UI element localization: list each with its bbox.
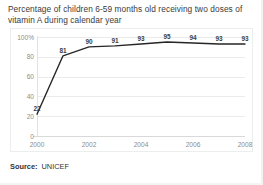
data-point-label: 94: [183, 34, 203, 41]
y-tick-label: 80: [10, 53, 34, 60]
source-note: Source:UNICEF: [10, 162, 69, 171]
x-tick-label: 2008: [228, 141, 262, 149]
gridline: [37, 77, 245, 78]
x-tick-label: 2006: [176, 141, 210, 149]
y-axis-line: [37, 36, 38, 137]
gridline: [37, 116, 245, 117]
source-label: Source:: [10, 162, 38, 171]
x-tick-label: 2002: [72, 141, 106, 149]
x-tick-label: 2000: [20, 141, 54, 149]
y-axis-tick-labels: 020406080100%: [8, 0, 34, 185]
data-point-label: 93: [209, 35, 229, 42]
data-point-label: 93: [131, 35, 151, 42]
chart-title: Percentage of children 6-59 months old r…: [8, 4, 254, 26]
data-point-label: 95: [157, 33, 177, 40]
y-tick-label: 100%: [10, 34, 34, 41]
chart-screenshot: Percentage of children 6-59 months old r…: [0, 0, 263, 185]
gridline: [37, 96, 245, 97]
data-point-label: 90: [79, 38, 99, 45]
data-point-label: 91: [105, 37, 125, 44]
x-axis-line: [33, 136, 245, 137]
gridline: [37, 57, 245, 58]
data-point-label: 93: [235, 35, 255, 42]
y-tick-label: 0: [10, 133, 34, 140]
x-tick-label: 2004: [124, 141, 158, 149]
source-value: UNICEF: [42, 162, 70, 171]
data-point-label: 81: [53, 47, 73, 54]
data-point-label: 22: [27, 105, 47, 112]
y-tick-label: 20: [10, 113, 34, 120]
y-tick-label: 40: [10, 93, 34, 100]
y-tick-label: 60: [10, 73, 34, 80]
